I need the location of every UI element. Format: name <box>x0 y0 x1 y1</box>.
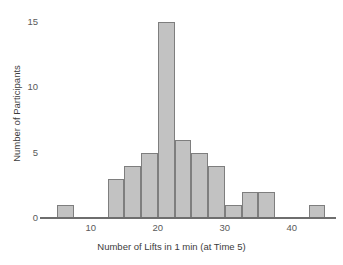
x-tick-label: 40 <box>272 222 312 233</box>
x-axis-title: Number of Lifts in 1 min (at Time 5) <box>0 241 343 252</box>
y-axis-title: Number of Participants <box>11 39 22 189</box>
plot-area <box>44 14 332 218</box>
histogram-bar <box>191 153 208 218</box>
y-tick-label: 0 <box>12 213 38 223</box>
bars-layer <box>44 14 332 218</box>
x-axis-line <box>40 217 336 219</box>
histogram-bar <box>141 153 158 218</box>
histogram-bar <box>158 22 175 218</box>
histogram-bar <box>175 140 192 218</box>
histogram-bar <box>242 192 259 218</box>
histogram-bar <box>124 166 141 218</box>
histogram-figure: 051015 10203040 Number of Participants N… <box>0 0 343 265</box>
histogram-bar <box>258 192 275 218</box>
histogram-bar <box>108 179 125 218</box>
y-tick-label: 15 <box>12 17 38 27</box>
x-tick-label: 20 <box>138 222 178 233</box>
x-tick-label: 10 <box>71 222 111 233</box>
x-tick-label: 30 <box>205 222 245 233</box>
histogram-bar <box>208 166 225 218</box>
